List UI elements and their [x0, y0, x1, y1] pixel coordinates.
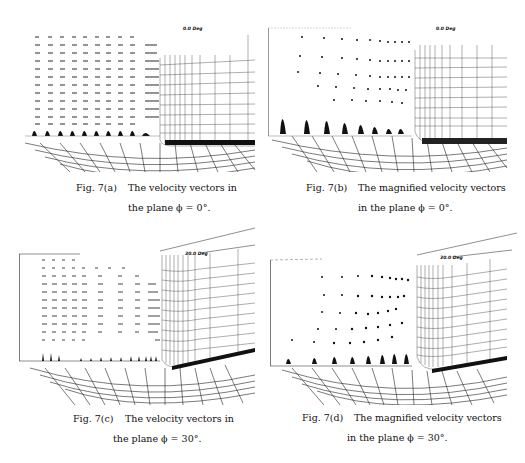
caption-7a-line2: the plane ϕ = 0°. [128, 203, 237, 213]
angle-tag-7b: 0.0 Deg [436, 26, 456, 31]
caption-7c-line1: The velocity vectors in [125, 413, 234, 424]
figure-7a-plot: 0.0 Deg [0, 0, 260, 172]
figure-7d-plot: 30.0 Deg [262, 225, 525, 405]
angle-tag-7d: 30.0 Deg [440, 255, 463, 260]
caption-7d-line2: in the plane ϕ = 30°. [347, 433, 502, 443]
velocity-vector-plot-7d: 30.0 Deg [262, 225, 525, 405]
caption-7c: Fig. 7(c)The velocity vectors in the pla… [73, 414, 234, 443]
caption-7d-line1: The magnified velocity vectors [354, 412, 502, 423]
caption-7b-line2: in the plane ϕ = 0°. [358, 203, 506, 213]
figure-label-7a: Fig. 7(a) [76, 183, 128, 193]
velocity-vector-plot-7a: 0.0 Deg [0, 0, 260, 172]
figure-label-7d: Fig. 7(d) [302, 413, 354, 423]
caption-7a: Fig. 7(a)The velocity vectors in the pla… [76, 183, 237, 212]
caption-7c-line2: the plane ϕ = 30°. [113, 434, 234, 444]
angle-tag-7a: 0.0 Deg [183, 26, 203, 31]
figure-7c-plot: 30.0 Deg [0, 225, 260, 405]
caption-7d: Fig. 7(d)The magnified velocity vectors … [302, 413, 502, 442]
caption-7a-line1: The velocity vectors in [128, 182, 237, 193]
velocity-vector-plot-7c: 30.0 Deg [0, 225, 260, 405]
figure-label-7c: Fig. 7(c) [73, 414, 125, 424]
caption-7b-line1: The magnified velocity vectors [358, 182, 506, 193]
figure-7b-plot: 0.0 Deg [262, 0, 525, 172]
angle-tag-7c: 30.0 Deg [185, 251, 208, 256]
velocity-vector-plot-7b: 0.0 Deg [262, 0, 525, 172]
caption-7b: Fig. 7(b)The magnified velocity vectors … [306, 183, 506, 212]
figure-label-7b: Fig. 7(b) [306, 183, 358, 193]
